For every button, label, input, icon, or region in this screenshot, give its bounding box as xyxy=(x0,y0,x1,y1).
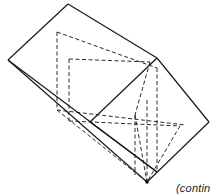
hidden-edge xyxy=(135,62,150,115)
hidden-edge xyxy=(69,121,180,126)
visible-edge xyxy=(157,58,209,122)
figure-caption: (contin xyxy=(176,182,210,194)
prism-diagram xyxy=(0,0,212,195)
visible-edge xyxy=(90,58,157,122)
hidden-edge xyxy=(57,32,157,68)
hidden-edge xyxy=(69,59,150,62)
visible-edge xyxy=(68,4,157,58)
hidden-edge xyxy=(147,126,180,182)
visible-edge xyxy=(147,122,209,182)
visible-edge xyxy=(8,4,68,60)
bottom-vertex-dot xyxy=(145,180,149,184)
visible-edge xyxy=(8,60,147,182)
hidden-edge xyxy=(135,115,147,182)
hidden-edge xyxy=(57,110,185,125)
visible-edges-group xyxy=(8,4,209,182)
